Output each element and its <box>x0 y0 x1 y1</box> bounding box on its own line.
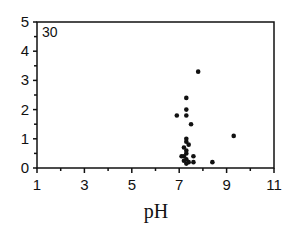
y-tick-label: 2 <box>21 101 29 118</box>
y-tick-label: 3 <box>21 71 29 88</box>
data-point <box>175 113 180 118</box>
data-point <box>191 154 196 159</box>
y-tick-label: 4 <box>21 42 29 59</box>
data-point <box>231 134 236 139</box>
x-tick-label: 3 <box>80 176 88 193</box>
y-tick-label: 0 <box>21 159 29 176</box>
x-axis-title: pH <box>144 200 168 223</box>
scatter-chart: 1357911 012345 30 pH <box>0 0 295 228</box>
plot-border <box>37 22 274 168</box>
x-tick-label: 5 <box>128 176 136 193</box>
data-point <box>184 161 189 166</box>
y-tick-label: 5 <box>21 13 29 30</box>
x-tick-label: 7 <box>175 176 183 193</box>
plot-frame <box>37 22 274 168</box>
data-point <box>184 113 189 118</box>
data-point <box>189 122 194 127</box>
x-tick-label: 9 <box>222 176 230 193</box>
data-point <box>186 142 191 147</box>
data-point <box>191 160 196 165</box>
y-axis: 012345 <box>21 13 37 176</box>
data-point <box>210 160 215 165</box>
data-point <box>184 107 189 112</box>
y-tick-label: 1 <box>21 130 29 147</box>
data-point <box>196 69 201 74</box>
x-axis: 1357911 <box>33 168 282 193</box>
data-point <box>184 96 189 101</box>
panel-label: 30 <box>42 24 58 40</box>
data-points <box>175 69 236 166</box>
x-tick-label: 11 <box>266 176 282 193</box>
x-tick-label: 1 <box>33 176 41 193</box>
